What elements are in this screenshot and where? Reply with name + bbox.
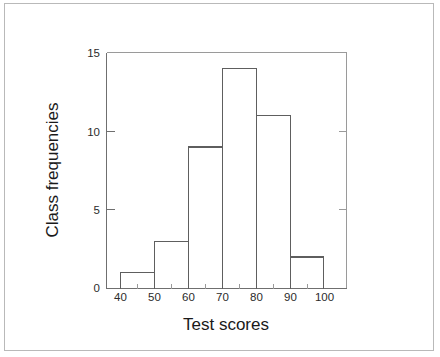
y-tick-labels: 0 5 10 15 [87,47,100,295]
x-tick-label-90: 90 [284,291,297,303]
x-axis-title: Test scores [183,315,269,334]
bar-50-60 [155,241,189,288]
y-tick-label-5: 5 [94,204,100,216]
x-tick-label-70: 70 [216,291,229,303]
x-tick-label-50: 50 [148,291,161,303]
y-tick-label-0: 0 [94,282,100,294]
histogram-plot: 0 5 10 15 40 50 60 70 80 90 100 Test sco… [0,0,440,357]
y-axis-title: Class frequencies [43,102,62,237]
x-tick-label-80: 80 [250,291,263,303]
plot-frame [107,53,347,289]
y-tick-label-10: 10 [87,126,100,138]
y-axis-ticks [107,132,347,210]
bar-60-70 [189,147,223,289]
bar-70-80 [223,68,257,288]
x-tick-label-100: 100 [315,291,334,303]
y-tick-label-15: 15 [87,47,100,59]
x-tick-label-40: 40 [114,291,127,303]
bar-80-90 [257,115,291,288]
x-tick-label-60: 60 [182,291,195,303]
histogram-bars [121,68,324,288]
histogram-figure: 0 5 10 15 40 50 60 70 80 90 100 Test sco… [0,0,440,357]
x-tick-labels: 40 50 60 70 80 90 100 [114,291,334,303]
